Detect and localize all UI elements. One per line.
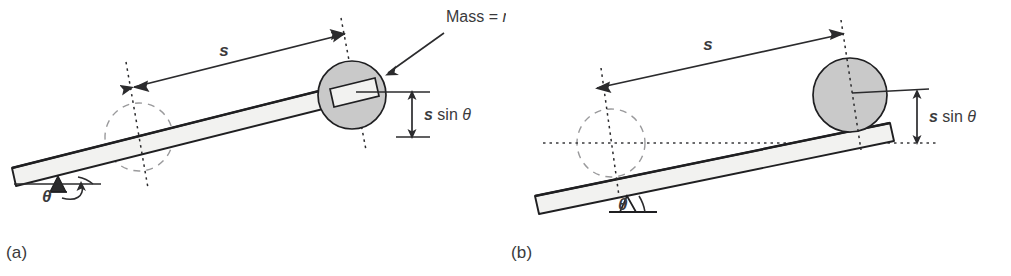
height-dimension-a xyxy=(408,90,417,139)
height-label-a: s sin θ xyxy=(424,106,471,123)
angle-indicator-b xyxy=(639,196,645,212)
diagram-panel-b: s s sin θ θ (b) xyxy=(505,0,1011,276)
mass-leader-line-a xyxy=(385,33,444,76)
inclined-plank-b xyxy=(535,123,894,214)
angle-label-b: θ xyxy=(618,195,628,214)
height-label-sin-b: sin xyxy=(938,108,967,125)
distance-label-b: s xyxy=(703,35,712,54)
distance-dimension-line-b xyxy=(597,34,843,88)
angle-label-a: θ xyxy=(42,187,52,206)
height-label-s-a: s xyxy=(424,106,433,123)
distance-dimension-line-a xyxy=(134,34,345,87)
mass-label-text-a: Mass = xyxy=(446,8,502,25)
height-label-sin-a: sin xyxy=(433,106,462,123)
height-label-theta-b: θ xyxy=(967,108,976,125)
figure-root: s Mass = m s sin θ θ xyxy=(0,0,1011,276)
distance-label-a: s xyxy=(219,41,228,60)
height-label-s-b: s xyxy=(929,108,938,125)
distance-arrow-right-a xyxy=(330,29,347,40)
height-label-theta-a: θ xyxy=(462,106,471,123)
mass-label-a: Mass = m xyxy=(446,8,506,25)
height-label-b: s sin θ xyxy=(929,108,976,125)
panel-caption-a: (a) xyxy=(6,243,27,262)
angle-indicator-a xyxy=(62,177,93,199)
height-dimension-b xyxy=(913,89,922,145)
panel-caption-b: (b) xyxy=(511,243,532,262)
diagram-panel-a: s Mass = m s sin θ θ xyxy=(0,0,506,276)
ghost-center-axis-a xyxy=(126,62,148,188)
sphere-mass-b xyxy=(813,58,887,132)
distance-arrow-right-b xyxy=(829,29,846,40)
